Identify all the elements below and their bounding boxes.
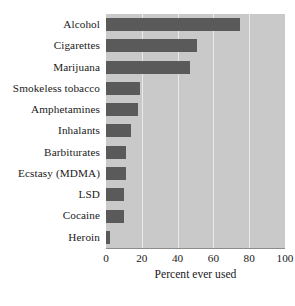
bar-lsd xyxy=(106,188,124,201)
bar-slot xyxy=(106,57,285,78)
bar-slot xyxy=(106,35,285,56)
category-label-smokeless-tobacco: Smokeless tobacco xyxy=(0,78,104,99)
bar-inhalants xyxy=(106,124,131,137)
bar-ecstasy-mdma xyxy=(106,167,126,180)
category-label-cocaine: Cocaine xyxy=(0,205,104,226)
x-axis-title: Percent ever used xyxy=(106,268,285,281)
bar-slot xyxy=(106,163,285,184)
bar-slot xyxy=(106,227,285,248)
category-label-lsd: LSD xyxy=(0,184,104,205)
x-tick-label-100: 100 xyxy=(277,250,294,266)
bar-barbiturates xyxy=(106,146,126,159)
bar-slot xyxy=(106,142,285,163)
category-label-cigarettes: Cigarettes xyxy=(0,35,104,56)
category-axis: Alcohol Cigarettes Marijuana Smokeless t… xyxy=(0,14,104,248)
category-label-marijuana: Marijuana xyxy=(0,57,104,78)
bar-slot xyxy=(106,120,285,141)
bar-smokeless-tobacco xyxy=(106,82,140,95)
x-axis-tick-labels: 020406080100 xyxy=(106,250,285,266)
category-label-barbiturates: Barbiturates xyxy=(0,142,104,163)
bar-alcohol xyxy=(106,18,240,31)
bar-cigarettes xyxy=(106,39,197,52)
category-label-heroin: Heroin xyxy=(0,227,104,248)
bar-chart-figure: Alcohol Cigarettes Marijuana Smokeless t… xyxy=(0,0,295,306)
bar-amphetamines xyxy=(106,103,138,116)
category-label-ecstasy-mdma: Ecstasy (MDMA) xyxy=(0,163,104,184)
bar-slot xyxy=(106,184,285,205)
bar-marijuana xyxy=(106,61,190,74)
bars-group xyxy=(106,14,285,248)
category-label-inhalants: Inhalants xyxy=(0,120,104,141)
bar-slot xyxy=(106,14,285,35)
category-label-amphetamines: Amphetamines xyxy=(0,99,104,120)
bar-slot xyxy=(106,78,285,99)
bar-heroin xyxy=(106,231,110,244)
bar-slot xyxy=(106,205,285,226)
x-tick-label-60: 60 xyxy=(208,250,219,266)
x-axis-line xyxy=(106,248,285,249)
x-tick-label-80: 80 xyxy=(244,250,255,266)
x-tick-label-0: 0 xyxy=(103,250,109,266)
plot-area xyxy=(106,14,285,248)
bar-slot xyxy=(106,99,285,120)
bar-cocaine xyxy=(106,210,124,223)
x-tick-label-40: 40 xyxy=(172,250,183,266)
x-tick-label-20: 20 xyxy=(136,250,147,266)
category-label-alcohol: Alcohol xyxy=(0,14,104,35)
